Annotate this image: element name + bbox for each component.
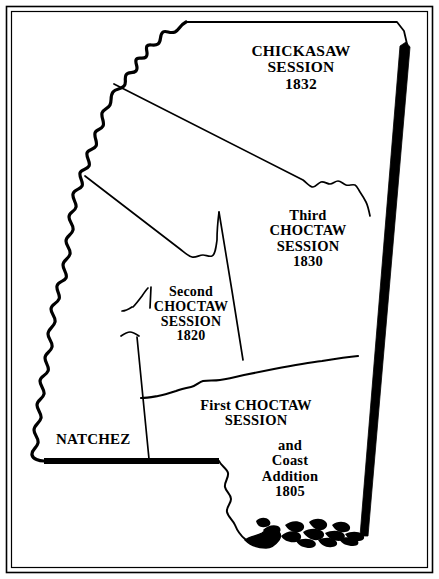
boundary-natchez-east-upper [137, 337, 143, 398]
boundary-chickasaw-1832 [114, 84, 370, 216]
label-coast-addition-year: 1805 [238, 484, 342, 499]
boundary-third-choctaw-1830-northwest [85, 176, 219, 257]
label-first-choctaw-session: First CHOCTAW SESSION [178, 398, 334, 429]
label-coast-addition: and Coast Addition 1805 [238, 438, 342, 499]
label-coast-addition-line-2: Coast [238, 453, 342, 468]
label-chickasaw-year: 1832 [218, 76, 384, 92]
label-chickasaw-line-1: CHICKASAW [218, 43, 384, 59]
label-natchez-text: NATCHEZ [56, 432, 148, 448]
label-first-choctaw-line-2: SESSION [178, 413, 334, 428]
label-third-choctaw-line-2: CHOCTAW [246, 223, 370, 238]
label-chickasaw-line-2: SESSION [218, 59, 384, 75]
label-second-choctaw-line-1: Second [136, 285, 246, 300]
label-third-choctaw-line-3: SESSION [246, 239, 370, 254]
label-second-choctaw-line-3: SESSION [136, 315, 246, 330]
label-second-choctaw-line-2: CHOCTAW [136, 300, 246, 315]
label-coast-addition-line-1: and [238, 438, 342, 453]
label-first-choctaw-line-1: First CHOCTAW [178, 398, 334, 413]
label-natchez-district: NATCHEZ [56, 432, 148, 448]
label-third-choctaw-line-1: Third [246, 208, 370, 223]
label-second-choctaw-year: 1820 [136, 329, 246, 344]
eastern-border-alabama-line [360, 42, 410, 536]
northern-border-tennessee-line [186, 22, 407, 44]
label-third-choctaw-year: 1830 [246, 254, 370, 269]
boundary-natchez-east-lower [143, 398, 149, 459]
map-figure: CHICKASAW SESSION 1832 Third CHOCTAW SES… [0, 0, 439, 579]
label-coast-addition-line-3: Addition [238, 469, 342, 484]
label-third-choctaw-session: Third CHOCTAW SESSION 1830 [246, 208, 370, 269]
boundary-first-choctaw-1805-north [141, 356, 358, 398]
label-chickasaw-session: CHICKASAW SESSION 1832 [218, 43, 384, 92]
label-second-choctaw-session: Second CHOCTAW SESSION 1820 [136, 285, 246, 344]
